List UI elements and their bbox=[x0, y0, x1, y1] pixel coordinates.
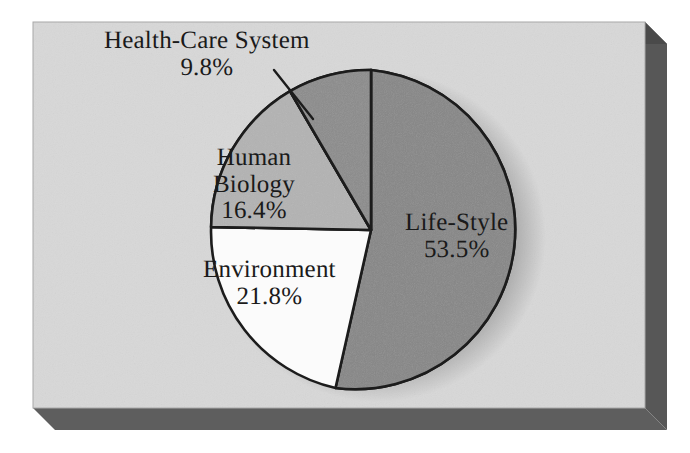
chart-figure: Health-Care System 9.8% Human Biology 16… bbox=[0, 0, 690, 453]
pie-label-environment-name: Environment bbox=[203, 256, 336, 283]
pie-label-environment: Environment 21.8% bbox=[203, 257, 336, 310]
pie-label-life-style-name: Life-Style bbox=[405, 209, 508, 236]
pie-label-health-care-system-name: Health-Care System bbox=[104, 27, 310, 54]
pie-label-life-style: Life-Style 53.5% bbox=[405, 210, 508, 263]
pie-label-human-biology-name-line1: Human bbox=[217, 144, 292, 171]
pie-label-health-care-system: Health-Care System 9.8% bbox=[104, 28, 310, 81]
pie-label-human-biology-name-line2: Biology bbox=[213, 172, 295, 199]
pie-label-human-biology: Human Biology 16.4% bbox=[213, 145, 295, 225]
pie-label-human-biology-percent: 16.4% bbox=[213, 198, 295, 225]
pie-label-life-style-percent: 53.5% bbox=[405, 237, 508, 264]
pie-label-environment-percent: 21.8% bbox=[203, 284, 336, 311]
pie-label-health-care-system-percent: 9.8% bbox=[104, 55, 310, 82]
